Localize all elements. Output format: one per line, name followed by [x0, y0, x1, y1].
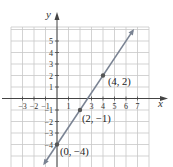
x-tick-label: 6 [124, 102, 128, 111]
x-tick-label: 1 [67, 102, 71, 111]
data-point-label: (0, −4) [60, 146, 89, 158]
x-tick-label: −2 [30, 102, 39, 111]
y-tick-label: 3 [49, 60, 53, 69]
x-tick-label: 4 [101, 102, 105, 111]
y-axis-label: y [45, 8, 51, 20]
x-tick-label: 3 [90, 102, 94, 111]
y-tick-label: 5 [49, 37, 53, 46]
data-point [101, 73, 105, 77]
x-tick-label: 7 [136, 102, 140, 111]
data-point [55, 142, 59, 146]
y-tick-label: 1 [49, 83, 53, 92]
x-axis-label: x [157, 97, 163, 109]
y-tick-label: 2 [49, 72, 53, 81]
y-tick-label: 4 [49, 49, 53, 58]
axes [2, 12, 168, 167]
data-point-label: (2, −1) [82, 113, 111, 125]
x-tick-label: −3 [18, 102, 27, 111]
data-point-label: (4, 2) [108, 76, 131, 88]
data-point [78, 108, 82, 112]
y-axis-arrow-icon [55, 12, 60, 20]
coordinate-plane: −3−2−113456754321−1−2−3−4 (4, 2)(2, −1)(… [0, 0, 173, 167]
y-tick-label: −3 [44, 129, 53, 138]
x-tick-label: 5 [113, 102, 117, 111]
y-tick-label: −4 [44, 141, 53, 150]
y-tick-label: −1 [44, 106, 53, 115]
y-tick-label: −2 [44, 118, 53, 127]
